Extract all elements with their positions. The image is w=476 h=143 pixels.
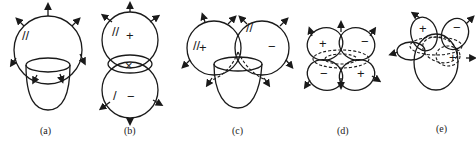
caption-a: (a) (40, 125, 51, 137)
svg-text:/: / (113, 88, 117, 103)
panel-c: + − // // (c) (184, 16, 291, 137)
sign-minus: − (361, 34, 369, 49)
sign-minus: − (320, 66, 328, 81)
panel-d: + − − + (d) (303, 23, 380, 137)
sign-plus: + (357, 66, 365, 81)
svg-text://: // (246, 20, 254, 35)
sign-minus: − (453, 20, 461, 35)
caption-e: (e) (436, 123, 447, 135)
orbital-lobes-figure: // (a) + × − // / (b) + − (0, 0, 476, 143)
sign-plus: + (449, 50, 457, 65)
panel-a: // (a) (12, 6, 84, 137)
sign-minus: − (268, 39, 276, 54)
sign-minus: − (127, 89, 135, 104)
svg-text://: // (22, 28, 30, 43)
svg-text://: // (112, 24, 120, 39)
panel-b: + × − // / (b) (102, 5, 160, 137)
panel-e: + − + (e) (392, 14, 474, 135)
sign-cross: × (125, 58, 133, 73)
sign-plus: + (419, 21, 427, 36)
sign-plus: + (319, 36, 327, 51)
caption-d: (d) (337, 125, 349, 137)
sign-plus: + (126, 28, 134, 43)
caption-b: (b) (124, 125, 136, 137)
caption-c: (c) (232, 125, 243, 137)
svg-text://: // (193, 38, 201, 53)
